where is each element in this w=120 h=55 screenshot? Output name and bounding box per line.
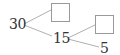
mid-number: 15 bbox=[53, 31, 70, 45]
branch-15-to-5 bbox=[68, 39, 99, 47]
branch-15-to-box2 bbox=[68, 25, 95, 38]
factor-tree-diagram: 30 15 5 bbox=[0, 0, 120, 55]
answer-box-2[interactable] bbox=[95, 15, 114, 34]
branch-30-to-15 bbox=[24, 25, 52, 36]
answer-box-1[interactable] bbox=[51, 3, 70, 22]
leaf-number: 5 bbox=[100, 41, 108, 55]
root-number: 30 bbox=[9, 17, 26, 31]
branch-30-to-box1 bbox=[24, 10, 51, 24]
